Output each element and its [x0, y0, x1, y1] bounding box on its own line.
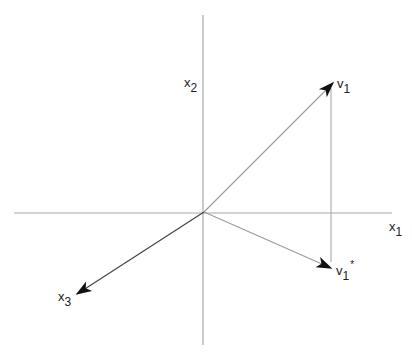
x2-sub: 2 — [191, 81, 198, 95]
x1-axis-label: x1 — [389, 220, 402, 233]
x3-axis — [77, 212, 204, 294]
x3-axis-label: x3 — [58, 290, 71, 303]
v1-star-sub: 1 — [343, 269, 350, 283]
vector-diagram — [0, 0, 412, 359]
v1-star-sup: * — [350, 259, 354, 270]
x2-axis-label: x2 — [184, 76, 197, 89]
x3-sub: 3 — [65, 295, 72, 309]
v1-star-vector — [204, 212, 331, 268]
v1-star-label: v1* — [336, 264, 354, 277]
v1-sub: 1 — [344, 82, 351, 96]
v1-label: v1 — [337, 77, 350, 90]
v1-vector — [204, 83, 333, 212]
x1-sub: 1 — [396, 225, 403, 239]
